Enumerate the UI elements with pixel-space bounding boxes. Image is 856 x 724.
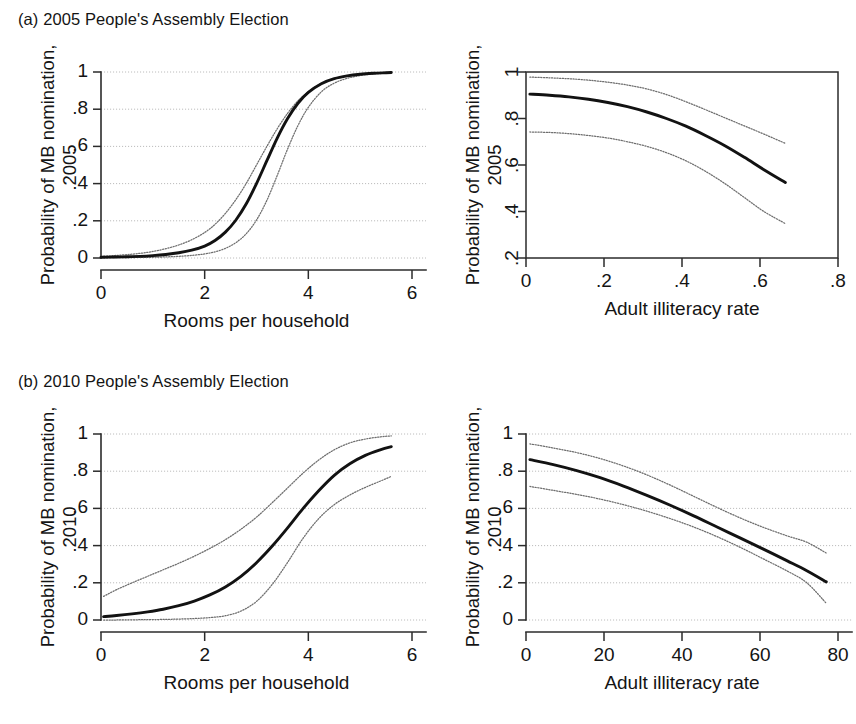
y-axis-title-line2: 2010 bbox=[59, 506, 80, 547]
y-axis-title-line2: 2005 bbox=[484, 144, 505, 185]
chart-a-right: .2.4.6.810.2.4.6.8Adult illiteracy rateP… bbox=[428, 0, 856, 362]
x-tick-label-3: .6 bbox=[752, 270, 768, 291]
x-tick-label-2: .4 bbox=[674, 270, 690, 291]
y-tick-label-5: 1 bbox=[502, 422, 513, 443]
x-tick-label-1: 2 bbox=[199, 644, 210, 665]
curve-a-left-1 bbox=[101, 73, 391, 257]
x-tick-label-3: 6 bbox=[407, 644, 418, 665]
x-axis-title: Rooms per household bbox=[164, 672, 350, 693]
x-tick-label-1: .2 bbox=[596, 270, 612, 291]
x-tick-label-2: 40 bbox=[671, 644, 692, 665]
curve-b-left-0 bbox=[104, 447, 392, 617]
curve-a-right-2 bbox=[530, 132, 785, 224]
curve-a-right-0 bbox=[530, 94, 785, 182]
y-tick-label-5: 1 bbox=[77, 60, 88, 81]
x-tick-label-4: .8 bbox=[830, 270, 846, 291]
panel-a-left: 0.2.4.6.810246Rooms per householdProbabi… bbox=[0, 0, 428, 362]
x-axis-title: Adult illiteracy rate bbox=[604, 298, 759, 319]
panel-b-left: 0.2.4.6.810246Rooms per householdProbabi… bbox=[0, 362, 428, 724]
y-tick-label-0: 0 bbox=[502, 608, 513, 629]
y-tick-label-4: .8 bbox=[72, 459, 88, 480]
x-tick-label-2: 4 bbox=[303, 644, 314, 665]
curve-a-left-0 bbox=[101, 73, 391, 258]
y-axis-title-line1: Probability of MB nomination, bbox=[37, 407, 58, 648]
y-tick-label-1: .2 bbox=[72, 209, 88, 230]
x-tick-label-0: 0 bbox=[521, 270, 532, 291]
y-tick-label-4: 1 bbox=[501, 67, 522, 78]
x-tick-label-1: 20 bbox=[593, 644, 614, 665]
panel-group-a: (a) 2005 People's Assembly Election 0.2.… bbox=[0, 0, 856, 362]
y-axis-title-line1: Probability of MB nomination, bbox=[37, 45, 58, 286]
y-tick-label-0: 0 bbox=[77, 608, 88, 629]
curve-a-left-2 bbox=[101, 73, 391, 258]
y-axis-title-line2: 2010 bbox=[484, 506, 505, 547]
curve-b-left-2 bbox=[104, 476, 392, 620]
x-tick-label-0: 0 bbox=[96, 644, 107, 665]
curve-b-right-2 bbox=[530, 486, 826, 603]
y-axis-title-line1: Probability of MB nomination, bbox=[462, 407, 483, 648]
y-tick-label-0: .2 bbox=[501, 250, 522, 266]
x-tick-label-1: 2 bbox=[199, 282, 210, 303]
panel-b-right: 0.2.4.6.81020406080Adult illiteracy rate… bbox=[428, 362, 856, 724]
y-tick-label-4: .8 bbox=[72, 97, 88, 118]
y-axis-title-line1: Probability of MB nomination, bbox=[462, 45, 483, 286]
y-tick-label-1: .2 bbox=[497, 571, 513, 592]
figure-root: (a) 2005 People's Assembly Election 0.2.… bbox=[0, 0, 856, 724]
x-tick-label-0: 0 bbox=[521, 644, 532, 665]
x-tick-label-0: 0 bbox=[96, 282, 107, 303]
x-axis-title: Adult illiteracy rate bbox=[604, 672, 759, 693]
y-tick-label-1: .2 bbox=[72, 571, 88, 592]
x-tick-label-3: 6 bbox=[407, 282, 418, 303]
y-tick-label-0: 0 bbox=[77, 246, 88, 267]
y-tick-label-4: .8 bbox=[497, 459, 513, 480]
chart-b-left: 0.2.4.6.810246Rooms per householdProbabi… bbox=[0, 362, 428, 724]
x-tick-label-2: 4 bbox=[303, 282, 314, 303]
x-axis-title: Rooms per household bbox=[164, 310, 350, 331]
x-tick-label-4: 80 bbox=[827, 644, 848, 665]
x-tick-label-3: 60 bbox=[749, 644, 770, 665]
curve-b-right-1 bbox=[530, 444, 826, 553]
y-tick-label-3: .8 bbox=[501, 111, 522, 127]
y-tick-label-5: 1 bbox=[77, 422, 88, 443]
panel-group-b: (b) 2010 People's Assembly Election 0.2.… bbox=[0, 362, 856, 724]
chart-a-left: 0.2.4.6.810246Rooms per householdProbabi… bbox=[0, 0, 428, 362]
panel-a-right: .2.4.6.810.2.4.6.8Adult illiteracy rateP… bbox=[428, 0, 856, 362]
y-tick-label-1: .4 bbox=[501, 203, 522, 219]
chart-b-right: 0.2.4.6.81020406080Adult illiteracy rate… bbox=[428, 362, 856, 724]
y-axis-title-line2: 2005 bbox=[59, 144, 80, 185]
